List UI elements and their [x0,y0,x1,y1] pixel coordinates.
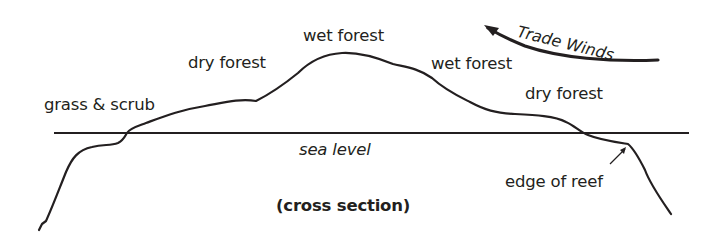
label-wet-forest-top: wet forest [303,28,384,45]
label-sea-level: sea level [299,142,371,159]
label-grass-scrub: grass & scrub [44,97,155,114]
label-wet-forest-right: wet forest [431,56,512,73]
label-dry-forest-left: dry forest [188,55,266,72]
label-dry-forest-right: dry forest [525,86,603,103]
label-edge-of-reef: edge of reef [505,174,603,191]
diagram-title: (cross section) [276,198,410,215]
